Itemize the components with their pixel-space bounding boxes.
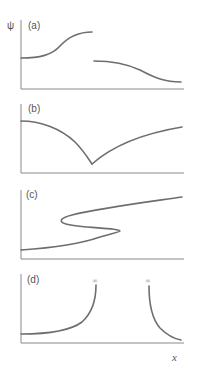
x-axis-label: x [171,351,177,363]
panel-d-curve-left [21,285,96,334]
panel-b: (b) [21,103,184,173]
panel-c-curve [21,197,182,250]
psi-axis-label: ψ [7,20,14,31]
panel-b-label: (b) [28,103,40,114]
panel-d: (d) ∞ ∞ [21,274,184,343]
panel-a: ψ (a) [7,20,184,89]
infinity-mark-right: ∞ [145,277,151,285]
panel-b-curve-left [21,121,92,164]
panel-c: (c) [21,189,184,259]
panel-a-curve-left [21,32,92,58]
panel-a-label: (a) [28,20,40,31]
panel-a-curve-right [94,61,181,82]
panel-c-label: (c) [26,189,38,200]
wavefunction-diagram: ψ (a) (b) (c) (d) ∞ ∞ x [0,0,198,366]
infinity-mark-left: ∞ [92,277,98,285]
panel-b-curve-right [92,127,182,164]
panel-d-label: (d) [27,274,39,285]
panel-d-curve-right [149,286,181,340]
